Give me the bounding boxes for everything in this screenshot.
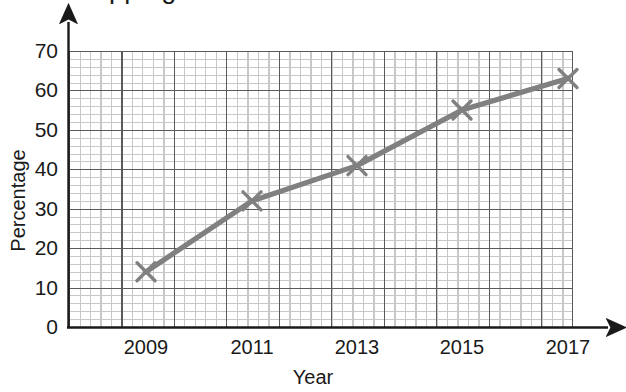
x-tick-label-2009: 2009 <box>124 336 169 359</box>
data-series <box>0 0 626 392</box>
y-tick-label: 70 <box>0 39 58 63</box>
y-tick-label: 0 <box>0 315 58 339</box>
chart-page: Shopping online <box>0 0 626 392</box>
x-tick-label-2017: 2017 <box>546 336 591 359</box>
data-point-marker <box>137 263 155 281</box>
x-tick-label-2011: 2011 <box>230 336 273 359</box>
y-tick-label: 60 <box>0 78 58 102</box>
y-axis-label: Percentage <box>7 121 30 281</box>
x-tick-label-2013: 2013 <box>335 336 380 359</box>
series-line <box>146 79 568 272</box>
x-axis-label: Year <box>0 366 626 389</box>
x-tick-label-2015: 2015 <box>440 336 485 359</box>
